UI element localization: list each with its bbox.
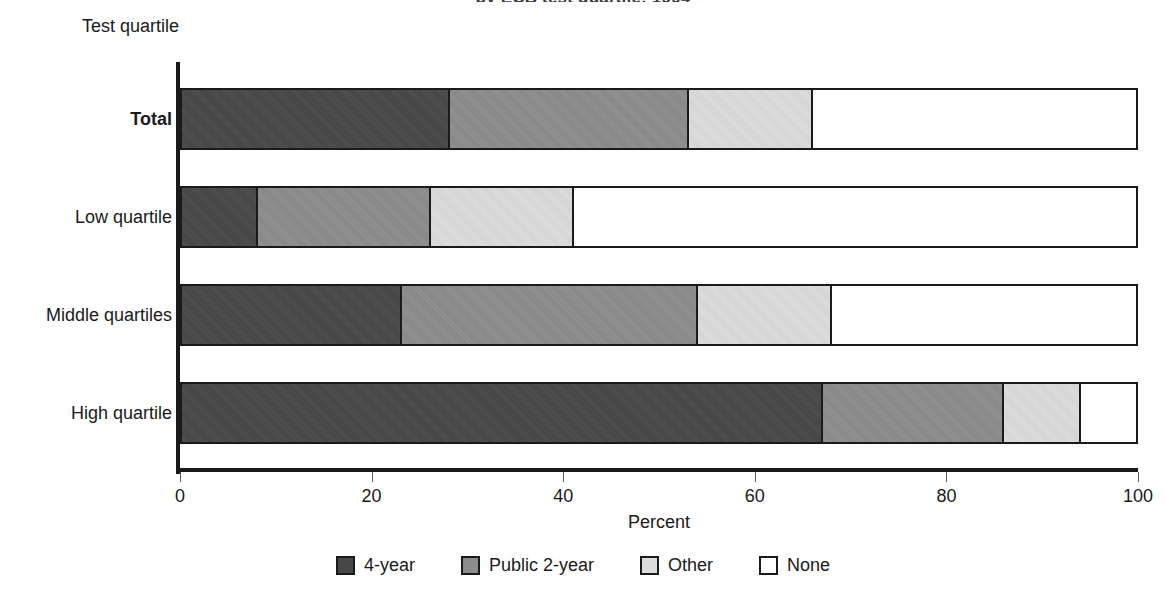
x-axis-tick [946, 472, 947, 482]
bar-row [180, 382, 1138, 444]
bar-segment [687, 88, 813, 150]
bar-segment [180, 284, 402, 346]
bar-row [180, 186, 1138, 248]
category-label-middle-quartiles: Middle quartiles [2, 305, 172, 326]
plot-area [180, 68, 1138, 468]
x-axis-tick-label: 100 [1123, 486, 1153, 507]
category-label-low-quartile: Low quartile [2, 207, 172, 228]
bar-segment [400, 284, 698, 346]
bar-segment [256, 186, 430, 248]
value-axis-line [178, 468, 1138, 472]
legend-item[interactable]: None [759, 555, 830, 576]
x-axis-tick-label: 0 [175, 486, 185, 507]
x-axis-tick-label: 40 [553, 486, 573, 507]
legend-label: 4-year [364, 555, 415, 576]
y-axis-title: Test quartile [82, 16, 179, 37]
x-axis-tick [755, 472, 756, 482]
chart-title: by ECB test quartile: 1994 [0, 0, 1166, 2]
x-axis-tick-label: 80 [936, 486, 956, 507]
bar-segment [696, 284, 832, 346]
bar-row [180, 88, 1138, 150]
legend-item[interactable]: Public 2-year [461, 555, 594, 576]
legend-swatch-icon [336, 556, 355, 575]
bar-segment [1002, 382, 1080, 444]
legend-swatch-icon [759, 556, 778, 575]
category-label-group: TotalLow quartileMiddle quartilesHigh qu… [0, 68, 172, 468]
legend-label: Other [668, 555, 713, 576]
bar-segment [180, 88, 450, 150]
bar-segment [429, 186, 574, 248]
stacked-bar-chart: by ECB test quartile: 1994 Test quartile… [0, 0, 1166, 613]
category-label-total: Total [2, 109, 172, 130]
bar-segment [572, 186, 1138, 248]
x-axis-tick [372, 472, 373, 482]
bar-segment [448, 88, 689, 150]
bar-segment [830, 284, 1138, 346]
bar-row [180, 284, 1138, 346]
legend-swatch-icon [461, 556, 480, 575]
bar-segment [180, 382, 823, 444]
x-axis-tick [563, 472, 564, 482]
x-axis-title: Percent [180, 512, 1138, 533]
legend-label: Public 2-year [489, 555, 594, 576]
x-axis-tick [180, 472, 181, 482]
bar-segment [821, 382, 1005, 444]
category-label-high-quartile: High quartile [2, 403, 172, 424]
legend-item[interactable]: Other [640, 555, 713, 576]
x-axis-tick-label: 20 [362, 486, 382, 507]
bar-segment [811, 88, 1138, 150]
chart-legend: 4-yearPublic 2-yearOtherNone [0, 555, 1166, 576]
legend-item[interactable]: 4-year [336, 555, 415, 576]
x-axis-tick-label: 60 [745, 486, 765, 507]
legend-label: None [787, 555, 830, 576]
legend-swatch-icon [640, 556, 659, 575]
bar-segment [1079, 382, 1138, 444]
bar-segment [180, 186, 258, 248]
x-axis-tick [1138, 472, 1139, 482]
